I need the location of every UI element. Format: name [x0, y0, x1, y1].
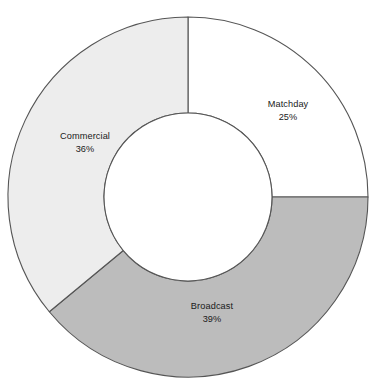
donut-chart: Matchday25%Broadcast39%Commercial36% — [0, 0, 379, 391]
donut-chart-svg — [0, 0, 379, 391]
donut-center-hole — [104, 113, 272, 281]
